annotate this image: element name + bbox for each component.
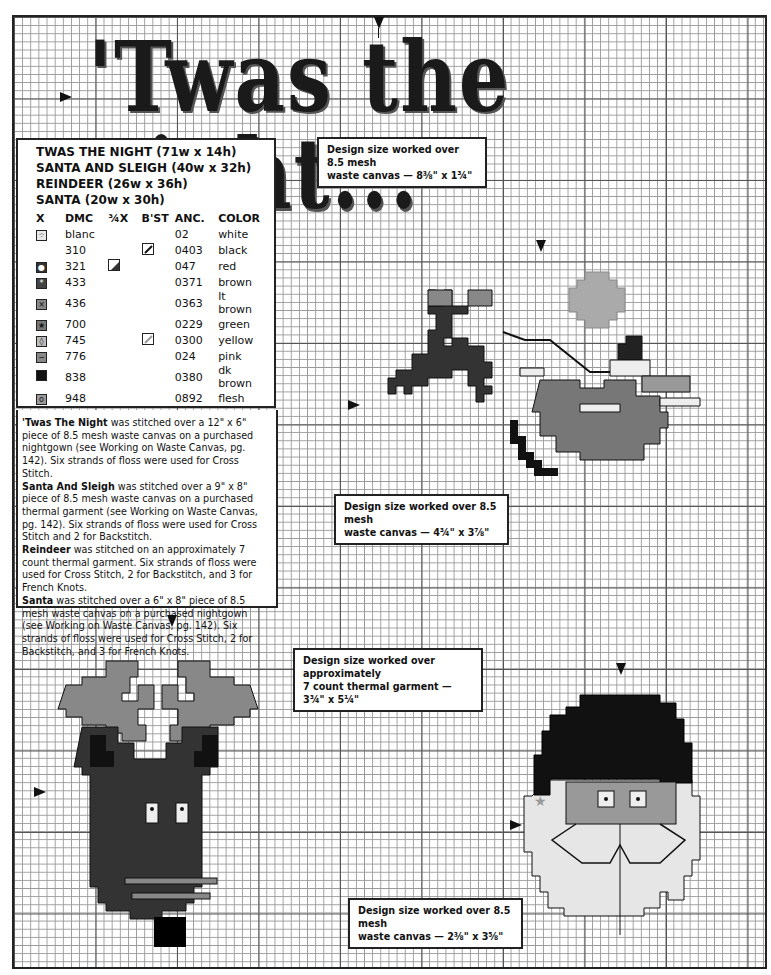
legend-row: ⁘ blanc 02 white xyxy=(36,226,266,242)
col-x: X xyxy=(36,211,65,226)
size-note-twas: Design size worked over 8.5 mesh waste c… xyxy=(317,137,487,188)
jingle-bell-star-icon: ★ xyxy=(534,793,547,809)
legend-row: o 948 0892 flesh xyxy=(36,390,266,406)
santa-face-motif: ★ xyxy=(510,660,750,940)
legend-heading-sleigh: SANTA AND SLEIGH (40w x 32h) xyxy=(36,160,266,176)
star-dark-symbol-icon: * xyxy=(36,278,47,289)
center-arrow-down-icon xyxy=(167,615,177,627)
solid-symbol-icon xyxy=(36,370,47,381)
legend-row: ◊ 745 0300 yellow xyxy=(36,332,266,348)
diamond-symbol-icon: ◊ xyxy=(36,336,47,347)
santa-sleigh-motif xyxy=(370,240,710,480)
three-quarter-stitch-icon xyxy=(108,259,120,271)
backstitch-gray-icon xyxy=(142,333,154,345)
col-three-quarter: ¾X xyxy=(108,211,141,226)
center-arrow-down-icon xyxy=(536,240,546,252)
circle-symbol-icon: o xyxy=(36,394,47,405)
size-note-santa: Design size worked over 8.5 mesh waste c… xyxy=(348,898,523,949)
reindeer-head-motif xyxy=(30,615,270,960)
center-arrow-right-icon xyxy=(510,820,522,830)
instruction-reindeer: Reindeer was stitched on an approximatel… xyxy=(22,544,256,593)
dash-symbol-icon: − xyxy=(36,352,47,363)
center-arrow-down-icon xyxy=(616,663,626,675)
size-note-reindeer: Design size worked over approximately 7 … xyxy=(293,648,483,712)
santa-motif-drawing: ★ xyxy=(510,660,750,940)
reindeer-motif-drawing xyxy=(30,615,270,960)
backstitch-black-icon xyxy=(142,243,154,255)
legend-heading-twas: TWAS THE NIGHT (71w x 14h) xyxy=(36,144,266,160)
instruction-sleigh: Santa And Sleigh was stitched over a 9" … xyxy=(22,481,258,543)
legend-heading-santa: SANTA (20w x 30h) xyxy=(36,192,266,208)
x-symbol-icon: × xyxy=(36,299,47,310)
legend-row: − 776 024 pink xyxy=(36,348,266,364)
center-arrow-right-icon xyxy=(348,400,360,410)
color-key-legend: TWAS THE NIGHT (71w x 14h) SANTA AND SLE… xyxy=(16,138,276,408)
legend-row: 838 0380 dk brown xyxy=(36,364,266,390)
sleigh-motif-drawing xyxy=(370,240,710,480)
filled-symbol-icon: ● xyxy=(36,262,47,273)
stitching-instructions: 'Twas The Night was stitched over a 12" … xyxy=(16,410,278,608)
legend-row: * 433 0371 brown xyxy=(36,274,266,290)
col-backstitch: B'ST xyxy=(142,211,175,226)
legend-row: 310 0403 black xyxy=(36,242,266,258)
legend-row: × 436 0363 lt brown xyxy=(36,290,266,316)
legend-row: ● 321 047 red xyxy=(36,258,266,274)
center-arrow-right-icon xyxy=(34,787,46,797)
legend-row: ★ 700 0229 green xyxy=(36,316,266,332)
dotted-symbol-icon: ⁘ xyxy=(36,230,47,241)
center-arrow-right-icon xyxy=(60,92,72,102)
col-anc: ANC. xyxy=(175,211,218,226)
col-dmc: DMC xyxy=(65,211,108,226)
legend-heading-reindeer: REINDEER (26w x 36h) xyxy=(36,176,266,192)
center-arrow-down-icon xyxy=(374,17,384,29)
instruction-twas: 'Twas The Night was stitched over a 12" … xyxy=(22,417,253,479)
center-line xyxy=(378,28,379,38)
col-color: COLOR xyxy=(218,211,266,226)
star-symbol-icon: ★ xyxy=(36,320,47,331)
size-note-sleigh: Design size worked over 8.5 mesh waste c… xyxy=(334,494,509,545)
